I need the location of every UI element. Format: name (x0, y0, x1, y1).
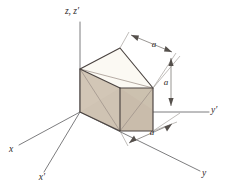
cube-solid (80, 48, 153, 131)
dim-top-label: a (152, 39, 157, 49)
dim-right-arrow-top (168, 58, 173, 66)
dim-right-arrow-bottom (168, 98, 173, 106)
dim-top-arrow-end (164, 46, 172, 52)
dim-top-ext-left (120, 32, 129, 48)
x-prime-axis-label: x′ (38, 172, 46, 182)
z-axis-label: z, z′ (64, 6, 80, 16)
x-prime-axis-line (44, 112, 80, 172)
dim-right-label: a (164, 77, 169, 87)
x-axis-label: x (8, 144, 14, 154)
dim-top-arrow-start (131, 35, 139, 41)
technical-figure: a a a z, z′ y′ y x x′ (0, 0, 228, 189)
dim-bottom-label: a (150, 127, 155, 137)
y-axis-label: y (201, 168, 207, 178)
y-prime-axis-label: y′ (210, 105, 218, 115)
figure-container: a a a z, z′ y′ y x x′ (0, 0, 228, 189)
x-axis-line (19, 112, 80, 145)
